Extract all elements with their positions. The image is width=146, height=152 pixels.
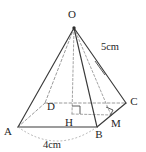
edge-OB [74, 28, 97, 127]
pyramid-svg: O A B C D H M 5cm 4cm [0, 0, 146, 152]
geometry-figure: O A B C D H M 5cm 4cm [0, 0, 146, 152]
measure-tick-slant [95, 61, 105, 75]
edge-OA [18, 28, 74, 127]
edge-OC [74, 28, 126, 103]
measure-label-slant: 5cm [101, 41, 119, 52]
vertex-label-A: A [4, 125, 12, 137]
apothem-HM [72, 114, 111, 115]
edge-OD [45, 28, 74, 103]
altitude-OH [72, 28, 74, 114]
edge-DA [18, 103, 45, 127]
right-angle-H [72, 106, 80, 114]
measure-label-base: 4cm [43, 139, 61, 150]
vertex-label-H: H [65, 116, 73, 128]
vertex-label-O: O [68, 8, 76, 20]
vertex-label-C: C [130, 95, 137, 107]
vertex-label-B: B [95, 128, 102, 140]
vertex-label-D: D [47, 100, 55, 112]
vertex-label-M: M [111, 117, 121, 129]
apex-vertex-dot [72, 26, 75, 29]
